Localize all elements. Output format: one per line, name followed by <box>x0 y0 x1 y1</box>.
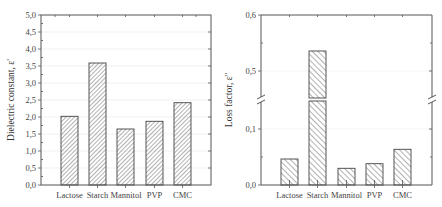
left-y-axis-title: Dielectric constant, ε' <box>6 59 16 141</box>
svg-text:CMC: CMC <box>173 190 192 200</box>
svg-text:1,0: 1,0 <box>25 146 36 156</box>
bar-starch <box>89 63 106 185</box>
svg-text:4,0: 4,0 <box>25 44 36 54</box>
svg-text:Starch: Starch <box>307 190 329 200</box>
svg-text:Lactose: Lactose <box>276 190 303 200</box>
bar-cmc <box>174 103 191 185</box>
svg-text:0,5: 0,5 <box>245 66 256 76</box>
svg-text:4,5: 4,5 <box>25 27 36 37</box>
svg-text:0,0: 0,0 <box>245 180 256 190</box>
svg-text:0,6: 0,6 <box>245 10 256 20</box>
svg-text:2,5: 2,5 <box>25 95 36 105</box>
svg-text:3,0: 3,0 <box>25 78 36 88</box>
figure: 0,0 0,5 1,0 1,5 2,0 2,5 3,0 3,5 4,0 4,5 … <box>0 0 442 207</box>
svg-text:1,5: 1,5 <box>25 129 36 139</box>
left-y-tick-labels: 0,0 0,5 1,0 1,5 2,0 2,5 3,0 3,5 4,0 4,5 … <box>25 10 36 190</box>
svg-text:3,5: 3,5 <box>25 61 36 71</box>
left-bars <box>61 63 191 185</box>
right-y-axis-title: Loss factor, ε'' <box>224 73 234 128</box>
svg-text:5,0: 5,0 <box>25 10 36 20</box>
svg-text:Starch: Starch <box>87 190 109 200</box>
svg-text:PVP: PVP <box>147 190 163 200</box>
svg-text:Lactose: Lactose <box>56 190 83 200</box>
svg-text:0,1: 0,1 <box>245 124 256 134</box>
svg-text:Mannitol: Mannitol <box>331 190 363 200</box>
right-y-tick-labels: 0,0 0,1 0,5 0,6 <box>245 10 256 190</box>
bar-starch-upper <box>309 51 326 98</box>
bar-mannitol <box>117 129 134 185</box>
svg-text:0,5: 0,5 <box>25 163 36 173</box>
bar-cmc <box>394 149 411 185</box>
svg-text:2,0: 2,0 <box>25 112 36 122</box>
bar-starch-lower <box>309 101 326 185</box>
right-chart: 0,0 0,1 0,5 0,6 Lactose Starch Mannitol … <box>224 10 436 200</box>
axis-break-icon <box>257 95 436 104</box>
svg-text:CMC: CMC <box>393 190 412 200</box>
left-x-category-labels: Lactose Starch Mannitol PVP CMC <box>56 190 192 200</box>
svg-text:0,0: 0,0 <box>25 180 36 190</box>
right-x-category-labels: Lactose Starch Mannitol PVP CMC <box>276 190 412 200</box>
bar-pvp <box>146 121 163 185</box>
svg-text:Mannitol: Mannitol <box>110 190 142 200</box>
svg-text:PVP: PVP <box>367 190 383 200</box>
right-gridlines <box>261 71 431 129</box>
bar-lactose <box>61 116 78 185</box>
left-chart: 0,0 0,5 1,0 1,5 2,0 2,5 3,0 3,5 4,0 4,5 … <box>6 10 211 200</box>
